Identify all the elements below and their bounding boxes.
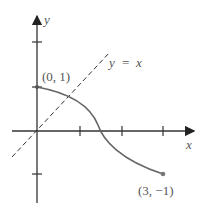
x-axis-label: x bbox=[185, 137, 192, 152]
identity-line bbox=[12, 52, 110, 157]
start-point bbox=[35, 85, 39, 89]
line-label-eq: = bbox=[122, 55, 129, 70]
line-label-x: x bbox=[135, 55, 142, 70]
start-point-label: (0, 1) bbox=[42, 69, 70, 84]
end-point-label: (3, −1) bbox=[138, 183, 174, 198]
graph: y x (0, 1) (3, −1) y = x bbox=[0, 0, 205, 212]
y-axis-label: y bbox=[42, 12, 50, 27]
line-label-y: y bbox=[107, 55, 115, 70]
end-point bbox=[161, 172, 166, 177]
